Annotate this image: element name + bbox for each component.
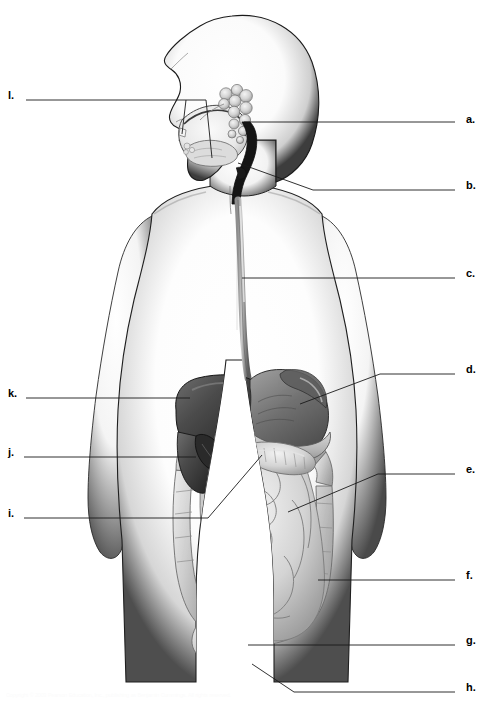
label-l[interactable]: l. <box>8 90 14 101</box>
label-k[interactable]: k. <box>8 388 17 399</box>
rectum <box>231 620 264 663</box>
pylorus <box>234 432 250 444</box>
anatomy-illustration <box>0 0 480 708</box>
digestive-system-figure: a. b. c. d. e. f. g. h. i. j. k. l. Copy… <box>0 0 480 708</box>
label-a[interactable]: a. <box>466 114 475 125</box>
label-f[interactable]: f. <box>466 570 473 581</box>
label-c[interactable]: c. <box>466 268 475 279</box>
label-b[interactable]: b. <box>466 180 476 191</box>
label-d[interactable]: d. <box>466 364 476 375</box>
label-e[interactable]: e. <box>466 464 475 475</box>
appendix <box>199 652 202 672</box>
rectum-anal-canal <box>231 620 264 679</box>
label-i[interactable]: i. <box>8 508 14 519</box>
anal-canal <box>241 658 258 679</box>
label-g[interactable]: g. <box>466 635 476 646</box>
label-j[interactable]: j. <box>8 447 14 458</box>
copyright-caption: Copyright © 2003 Pearson Education, Inc.… <box>6 692 476 698</box>
cystic-duct <box>218 437 240 442</box>
anus <box>246 676 255 679</box>
small-intestine-shading <box>224 468 264 558</box>
